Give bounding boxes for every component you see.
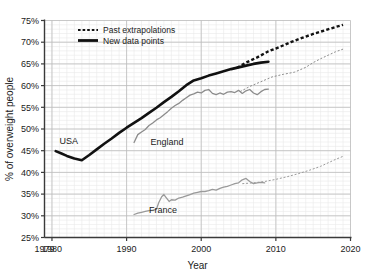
y-axis-tick-label: 25%: [21, 233, 39, 243]
x-axis-tick-label: 1990: [117, 244, 137, 254]
series-label-france: France: [149, 205, 177, 215]
legend-label-past-extrapolations: Past extrapolations: [103, 25, 175, 35]
chart-canvas: 25%30%35%40%45%50%55%60%65%70%75%1979198…: [0, 0, 373, 272]
legend-label-new-data-points: New data points: [103, 36, 164, 46]
y-axis-tick-label: 35%: [21, 189, 39, 199]
y-axis-title: % of overweight people: [4, 77, 15, 181]
y-axis-tick-label: 75%: [21, 16, 39, 26]
x-axis-tick-label: 2000: [191, 244, 211, 254]
x-axis-title: Year: [187, 260, 208, 271]
y-axis-tick-label: 45%: [21, 146, 39, 156]
y-axis-tick-label: 55%: [21, 103, 39, 113]
x-axis-tick-label: 1980: [42, 244, 62, 254]
y-axis-tick-label: 65%: [21, 59, 39, 69]
y-axis-tick-label: 70%: [21, 37, 39, 47]
overweight-population-chart: 25%30%35%40%45%50%55%60%65%70%75%1979198…: [0, 0, 373, 272]
y-axis-tick-label: 60%: [21, 81, 39, 91]
y-axis-tick-label: 40%: [21, 168, 39, 178]
series-label-usa: USA: [59, 136, 78, 146]
x-axis-tick-label: 2020: [340, 244, 360, 254]
y-axis-tick-label: 30%: [21, 211, 39, 221]
x-axis-tick-label: 2010: [266, 244, 286, 254]
y-axis-tick-label: 50%: [21, 124, 39, 134]
series-label-england: England: [150, 137, 183, 147]
